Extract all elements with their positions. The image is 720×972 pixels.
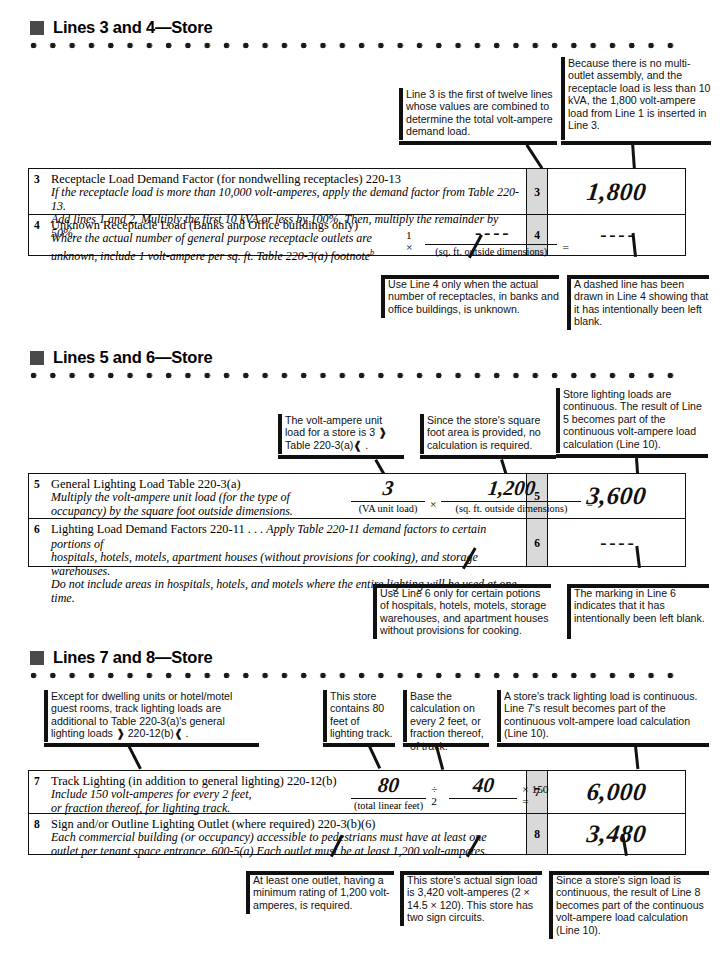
worksheet-table-lines-3-4: 3 Receptacle Load Demand Factor (for non… bbox=[28, 168, 686, 256]
callout-leader-line bbox=[128, 745, 142, 769]
callout-line4-usage: Use Line 4 only when the actual number o… bbox=[381, 278, 559, 315]
row-description: Track Lighting (in addition to general l… bbox=[51, 771, 526, 813]
row-subtext: outlet per tenant space entrance. 600-5(… bbox=[51, 845, 522, 859]
handwritten-value: 3,480 bbox=[585, 820, 648, 848]
worksheet-row-5: 5 General Lighting Load Table 220-3(a) M… bbox=[29, 474, 685, 519]
row-number: 3 bbox=[29, 169, 51, 214]
row-description: Lighting Load Demand Factors 220-11 . . … bbox=[51, 519, 526, 566]
callout-line5-continuous: Store lighting loads are continuous. The… bbox=[556, 388, 708, 450]
row-value-box[interactable]: - - - - bbox=[548, 519, 685, 566]
callout-leader-line bbox=[631, 142, 635, 168]
handwritten-value: 3,600 bbox=[585, 482, 648, 510]
section-bullet-icon bbox=[30, 21, 44, 35]
row5-formula: 3 (VA unit load) × 1,200 (sq. ft. outsid… bbox=[351, 475, 598, 514]
callout-line6-blank: The marking in Line 6 indicates that it … bbox=[567, 587, 709, 624]
handwritten-value: 80 bbox=[377, 773, 401, 798]
callout-line7-continuous: A store's track lighting load is continu… bbox=[497, 690, 709, 740]
row-number: 6 bbox=[29, 519, 51, 566]
worksheet-row-4: 4 Unknown Receptacle Load (Banks and Off… bbox=[29, 215, 685, 255]
row-number: 4 bbox=[29, 215, 51, 255]
formula-tail: × 150 = bbox=[517, 783, 558, 811]
section-divider-dots bbox=[30, 672, 685, 679]
handwritten-value: 1,200 bbox=[486, 476, 536, 501]
row-subtext: hospitals, hotels, motels, apartment hou… bbox=[51, 551, 522, 578]
callout-line7-track-length: This store contains 80 feet of lighting … bbox=[323, 690, 395, 740]
section-divider-dots bbox=[30, 372, 685, 379]
section-header-lines-3-4: Lines 3 and 4—Store bbox=[30, 18, 212, 37]
callout-line5-sqft: Since the store's square foot area is pr… bbox=[420, 414, 556, 451]
section-title: Lines 5 and 6—Store bbox=[53, 348, 212, 367]
formula-lead: 1 × bbox=[401, 229, 425, 257]
row-description: Sign and/or Outline Lighting Outlet (whe… bbox=[51, 814, 526, 854]
row7-formula: 80 (total linear feet) ÷ 2 40 × 150 = bbox=[351, 772, 558, 811]
row-index-box: 8 bbox=[526, 814, 548, 854]
footnote-marker: b bbox=[370, 248, 374, 257]
formula-denominator: (sq. ft. outside dimensions) bbox=[456, 502, 568, 514]
section-bullet-icon bbox=[30, 651, 44, 665]
section-bullet-icon bbox=[30, 351, 44, 365]
worksheet-row-8: 8 Sign and/or Outline Lighting Outlet (w… bbox=[29, 814, 685, 854]
row-subtext: Each commercial building (or occupancy) … bbox=[51, 831, 522, 845]
formula-tail: = bbox=[557, 241, 573, 257]
section-divider-dots bbox=[30, 42, 685, 49]
section-title: Lines 7 and 8—Store bbox=[53, 648, 212, 667]
row-description: Unknown Receptacle Load (Banks and Offic… bbox=[51, 215, 526, 255]
callout-line3-combined: Line 3 is the first of twelve lines whos… bbox=[399, 88, 557, 138]
callout-leader-line bbox=[634, 746, 639, 769]
row-number: 5 bbox=[29, 474, 51, 518]
row-value-box[interactable]: 6,000 bbox=[548, 771, 685, 813]
row-number: 8 bbox=[29, 814, 51, 854]
callout-line8-continuous: Since a store's sign load is continuous,… bbox=[549, 874, 709, 936]
blank-dash-value: - - - - bbox=[600, 224, 633, 246]
formula-denominator: (sq. ft. outside dimensions) bbox=[435, 245, 547, 257]
callout-line4-dash: A dashed line has been drawn in Line 4 s… bbox=[567, 278, 709, 328]
callout-line5-unitload: The volt-ampere unit load for a store is… bbox=[278, 414, 404, 451]
formula-fraction-result: 40 bbox=[449, 772, 517, 811]
handwritten-value: 3 bbox=[381, 476, 395, 501]
callout-leader-line bbox=[526, 144, 543, 169]
row-title: Lighting Load Demand Factors 220-11 . . … bbox=[51, 522, 522, 551]
row-value-box[interactable]: 3,480 bbox=[548, 814, 685, 854]
worksheet-row-7: 7 Track Lighting (in addition to general… bbox=[29, 771, 685, 814]
formula-denominator: (total linear feet) bbox=[354, 799, 423, 811]
handwritten-value: 6,000 bbox=[585, 778, 648, 806]
row-title: Receptacle Load Demand Factor (for nondw… bbox=[51, 172, 522, 186]
callout-line8-signload: This store's actual sign load is 3,420 v… bbox=[400, 874, 542, 924]
callout-leader-line bbox=[369, 746, 381, 769]
worksheet-page: Lines 3 and 4—Store Line 3 is the first … bbox=[0, 0, 720, 972]
callout-line8-outlet: At least one outlet, having a minimum ra… bbox=[246, 874, 394, 911]
row-title: Sign and/or Outline Lighting Outlet (whe… bbox=[51, 817, 522, 831]
row-subtext: If the receptacle load is more than 10,0… bbox=[51, 186, 522, 213]
formula-fraction-unit-load: 3 (VA unit load) bbox=[351, 475, 425, 514]
formula-fraction: - - - - (sq. ft. outside dimensions) bbox=[425, 218, 557, 257]
formula-operator: ÷ 2 bbox=[426, 783, 449, 811]
row-number: 7 bbox=[29, 771, 51, 813]
callout-line7-basis: Base the calculation on every 2 feet, or… bbox=[403, 690, 489, 752]
row-value-box[interactable]: 1,800 bbox=[548, 169, 685, 214]
handwritten-value: 1,800 bbox=[585, 178, 648, 206]
callout-line3-value: Because there is no multi-outlet assembl… bbox=[561, 57, 711, 131]
formula-fraction-area: 1,200 (sq. ft. outside dimensions) bbox=[441, 475, 581, 514]
blank-dash-value: - - - - bbox=[600, 532, 633, 554]
worksheet-row-3: 3 Receptacle Load Demand Factor (for non… bbox=[29, 169, 685, 215]
formula-operator: × bbox=[425, 498, 441, 514]
callout-line6-usage: Use Line 6 only for certain potions of h… bbox=[373, 587, 551, 637]
worksheet-row-6: 6 Lighting Load Demand Factors 220-11 . … bbox=[29, 519, 685, 566]
section-title: Lines 3 and 4—Store bbox=[53, 18, 212, 37]
section-header-lines-5-6: Lines 5 and 6—Store bbox=[30, 348, 212, 367]
worksheet-table-lines-5-6: 5 General Lighting Load Table 220-3(a) M… bbox=[28, 473, 686, 567]
handwritten-value: 40 bbox=[471, 773, 495, 798]
row4-formula: 1 × - - - - (sq. ft. outside dimensions)… bbox=[401, 218, 574, 257]
row-index-box: 3 bbox=[526, 169, 548, 214]
callout-line7-scope: Except for dwelling units or hotel/motel… bbox=[44, 690, 259, 740]
row-description: Receptacle Load Demand Factor (for nondw… bbox=[51, 169, 526, 214]
section-header-lines-7-8: Lines 7 and 8—Store bbox=[30, 648, 212, 667]
formula-denominator: (VA unit load) bbox=[359, 502, 418, 514]
formula-fraction-linear-feet: 80 (total linear feet) bbox=[351, 772, 426, 811]
row-description: General Lighting Load Table 220-3(a) Mul… bbox=[51, 474, 526, 518]
row-index-box: 6 bbox=[526, 519, 548, 566]
worksheet-table-lines-7-8: 7 Track Lighting (in addition to general… bbox=[28, 770, 686, 855]
